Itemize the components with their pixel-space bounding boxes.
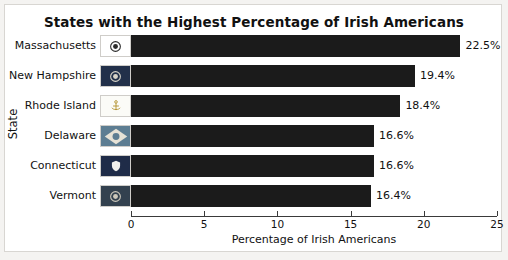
connecticut-flag-icon [100, 155, 131, 177]
bar-row: Delaware16.6% [131, 125, 497, 147]
state-label: Rhode Island [25, 95, 96, 117]
bar [131, 155, 374, 177]
bar-value-label: 18.4% [405, 95, 440, 117]
y-axis-label: State [6, 94, 20, 154]
vermont-flag-icon [100, 185, 131, 207]
bar-row: Massachusetts22.5% [131, 35, 497, 57]
new-hampshire-flag-icon [100, 65, 131, 87]
chart-title: States with the Highest Percentage of Ir… [5, 14, 503, 30]
bar [131, 185, 371, 207]
delaware-flag-icon [100, 125, 131, 147]
state-label: New Hampshire [9, 65, 96, 87]
x-axis-tick-label: 25 [482, 218, 508, 230]
state-label: Massachusetts [15, 35, 96, 57]
state-label: Delaware [44, 125, 96, 147]
bar [131, 95, 400, 117]
bar [131, 65, 415, 87]
bar-row: New Hampshire19.4% [131, 65, 497, 87]
x-axis-tick-label: 10 [262, 218, 292, 230]
x-axis-tick-label: 20 [409, 218, 439, 230]
bar-value-label: 19.4% [420, 65, 455, 87]
bar-value-label: 16.4% [376, 185, 411, 207]
x-axis-tick [131, 211, 132, 216]
x-axis-label: Percentage of Irish Americans [131, 233, 497, 246]
state-label: Connecticut [30, 155, 96, 177]
bar [131, 35, 460, 57]
x-axis-tick [351, 211, 352, 216]
bar-value-label: 16.6% [379, 155, 414, 177]
massachusetts-flag-icon [100, 35, 131, 57]
x-axis-tick [204, 211, 205, 216]
x-axis-tick [424, 211, 425, 216]
bar-row: Vermont16.4% [131, 185, 497, 207]
bar-row: Rhode Island18.4% [131, 95, 497, 117]
chart-frame: States with the Highest Percentage of Ir… [4, 4, 502, 252]
x-axis-tick [497, 211, 498, 216]
bar-row: Connecticut16.6% [131, 155, 497, 177]
x-axis-tick-label: 15 [336, 218, 366, 230]
state-label: Vermont [50, 185, 97, 207]
plot-area: Massachusetts22.5%New Hampshire19.4%Rhod… [131, 35, 497, 215]
x-axis-line [131, 216, 497, 217]
bar-value-label: 22.5% [465, 35, 500, 57]
bar [131, 125, 374, 147]
bar-value-label: 16.6% [379, 125, 414, 147]
x-axis-tick-label: 0 [116, 218, 146, 230]
rhode-island-flag-icon [100, 95, 131, 117]
x-axis-tick [277, 211, 278, 216]
x-axis-tick-label: 5 [189, 218, 219, 230]
